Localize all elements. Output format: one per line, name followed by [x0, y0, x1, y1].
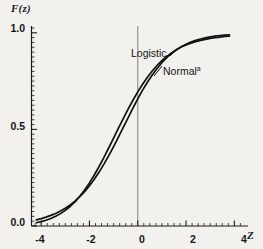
y-tick-label-2: 1.0 [1, 22, 25, 34]
y-tick-label-1: 0.5 [1, 120, 25, 132]
y-axis-title: F(z) [11, 2, 31, 14]
x-tick-label-4: 4 [233, 233, 255, 245]
curve-label-normal-superscript: a [197, 65, 201, 72]
curve-label-logistic: Logistic [131, 47, 167, 59]
x-tick-label-3: 2 [182, 233, 204, 245]
x-tick-label-0: -4 [29, 233, 51, 245]
y-tick-label-0: 0.0 [1, 216, 25, 228]
figure-container: F(z) Z 0.0 0.5 1.0 -4 -2 0 2 4 Logistic … [0, 0, 263, 249]
curve-label-normal: Normala [163, 65, 201, 77]
x-tick-label-2: 0 [131, 233, 153, 245]
x-tick-label-1: -2 [80, 233, 102, 245]
curve-label-normal-text: Normal [163, 65, 197, 77]
chart-plot-area [0, 0, 263, 249]
